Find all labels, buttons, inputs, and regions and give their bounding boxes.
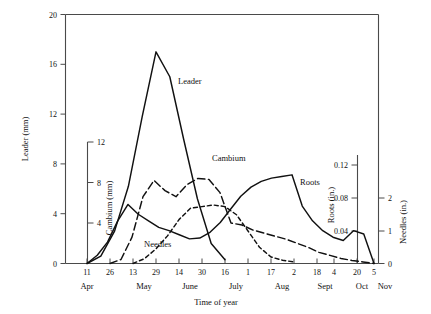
growth-chart: 0 4 8 12 16 20 Leader (mm) 12 8 4 Cambiu…	[0, 0, 431, 314]
axis-needles: 2 1 0 Needles (in.)	[379, 194, 409, 269]
x-tick-label: 14	[175, 268, 183, 277]
x-month-label: June	[182, 281, 198, 291]
axis-title-leader: Leader (mm)	[20, 117, 30, 162]
x-tick-label: 4	[332, 268, 336, 277]
axis-leader-tick-3: 12	[49, 110, 57, 119]
x-tick-label: 29	[152, 268, 160, 277]
x-month-label: Sept	[317, 281, 333, 291]
chart-container: 0 4 8 12 16 20 Leader (mm) 12 8 4 Cambiu…	[0, 0, 431, 314]
axis-title-roots: Roots (in.)	[326, 187, 336, 224]
x-month-label: Aug	[275, 281, 290, 291]
axis-leader-tick-0: 0	[53, 260, 57, 269]
axis-cambium: 12 8 4 Cambium (mm)	[88, 138, 115, 264]
axis-leader: 0 4 8 12 16 20 Leader (mm)	[20, 11, 66, 269]
series-label-leader: Leader	[178, 76, 202, 86]
x-tick-label: 20	[353, 268, 361, 277]
axis-leader-tick-2: 8	[53, 160, 57, 169]
series-label-roots: Roots	[300, 177, 320, 187]
x-tick-label: 13	[129, 268, 137, 277]
axis-roots-tick-008: 0.08	[334, 194, 348, 203]
axis-cambium-tick-8: 8	[97, 179, 101, 188]
axis-roots-tick-004: 0.04	[334, 227, 348, 236]
axis-cambium-tick-12: 12	[97, 138, 105, 147]
axis-leader-tick-4: 16	[49, 60, 57, 69]
x-tick-label: 11	[83, 268, 91, 277]
axis-leader-tick-1: 4	[53, 210, 57, 219]
x-tick-label: 17	[267, 268, 275, 277]
axis-needles-tick-0: 0	[388, 260, 392, 269]
axis-title-cambium: Cambium (mm)	[104, 181, 114, 236]
x-month-label: July	[229, 281, 244, 291]
x-month-label: Oct	[356, 281, 369, 291]
x-axis-title: Time of year	[194, 297, 238, 307]
series-label-cambium: Cambium	[212, 153, 246, 163]
axis-title-needles: Needles (in.)	[398, 200, 408, 244]
x-tick-label: 18	[313, 268, 321, 277]
series-label-needles: Needles	[144, 239, 171, 249]
x-tick-label: 26	[106, 268, 114, 277]
x-tick-label: 5	[372, 268, 376, 277]
x-tick-label: 2	[292, 268, 296, 277]
x-month-label: Nov	[378, 281, 393, 291]
axis-needles-tick-1: 1	[388, 227, 392, 236]
axis-leader-tick-5: 20	[49, 11, 57, 20]
x-tick-label: 30	[198, 268, 206, 277]
x-tick-label: 16	[221, 268, 229, 277]
x-tick-label: 1	[246, 268, 250, 277]
axis-cambium-tick-4: 4	[97, 219, 101, 228]
x-month-label: Apr	[80, 281, 93, 291]
axis-roots-tick-012: 0.12	[334, 161, 348, 170]
x-month-label: May	[136, 281, 152, 291]
axis-roots: 0.12 0.08 0.04 Roots (in.)	[326, 155, 358, 264]
axis-needles-tick-2: 2	[388, 194, 392, 203]
